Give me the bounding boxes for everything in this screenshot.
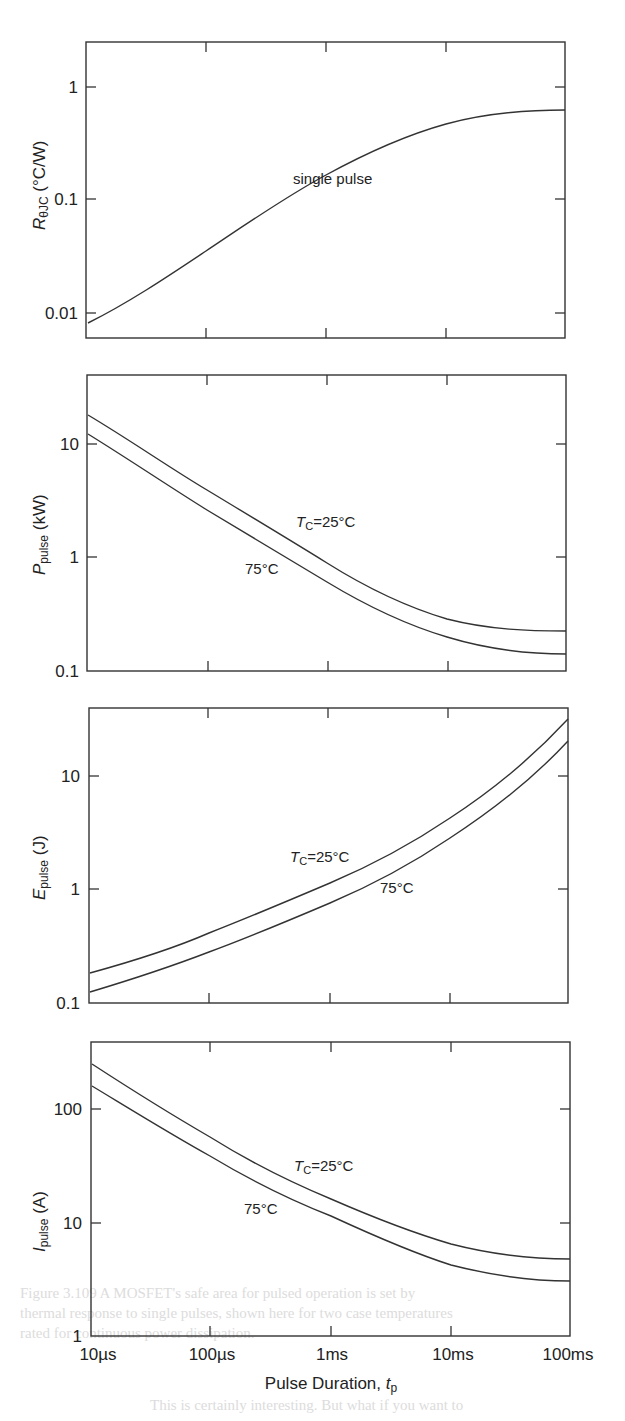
plot-frame	[86, 42, 565, 338]
series-single-pulse	[88, 110, 565, 323]
y-tick-label: 10	[63, 1214, 82, 1233]
x-tick-label: 10ms	[432, 1345, 474, 1364]
x-axis-label: Pulse Duration, tp	[265, 1374, 398, 1395]
y-tick-label: 10	[60, 435, 79, 454]
y-tick-label: 1	[73, 1327, 82, 1346]
x-tick-label: 1ms	[316, 1345, 348, 1364]
annotation-75c: 75°C	[380, 879, 414, 896]
bleed-caption-line-1: Figure 3.109 A MOSFET's safe area for pu…	[20, 1285, 416, 1301]
series-tc-25c	[90, 719, 568, 973]
y-tick-label: 0.1	[56, 994, 80, 1013]
y-tick-label: 0.1	[54, 190, 78, 209]
bleed-caption-line-2: thermal response to single pulses, shown…	[20, 1305, 453, 1321]
y-tick-label: 1	[69, 78, 78, 97]
series-75c	[88, 434, 566, 654]
y-axis-label: RθJC (°C/W)	[30, 140, 51, 230]
figure-canvas: Figure 3.109 A MOSFET's safe area for pu…	[0, 0, 625, 1421]
y-axis-label: Epulse (J)	[30, 835, 51, 900]
annotation-single-pulse: single pulse	[293, 170, 372, 187]
annotation-tc-25c: TC=25°C	[294, 1157, 354, 1176]
y-tick-label: 0.1	[55, 662, 79, 681]
bleed-caption-line-3: rated for continuous power dissipation.	[20, 1325, 255, 1341]
series-75c	[92, 1086, 570, 1281]
panel-pulse-current: 100 10 1 TC=25°C 75°C Ipulse (A) 10µs 10…	[30, 1042, 594, 1395]
x-tick-labels: 10µs 100µs 1ms 10ms 100ms	[79, 1345, 593, 1364]
y-tick-label: 1	[71, 880, 80, 899]
panel-pulse-power: 10 1 0.1 TC=25°C 75°C Ppulse (kW)	[30, 375, 566, 681]
x-tick-label: 100ms	[542, 1345, 593, 1364]
annotation-tc-25c: TC=25°C	[290, 848, 350, 867]
x-tick-label: 10µs	[79, 1345, 116, 1364]
y-axis-label: Ppulse (kW)	[30, 494, 51, 575]
y-tick-label: 10	[61, 767, 80, 786]
y-tick-label: 100	[54, 1100, 82, 1119]
y-ticks	[87, 444, 566, 557]
annotation-tc-25c: TC=25°C	[296, 513, 356, 532]
y-axis-label: Ipulse (A)	[30, 1191, 51, 1252]
panel-pulse-energy: 10 1 0.1 TC=25°C 75°C Epulse (J)	[30, 708, 568, 1013]
y-ticks	[89, 776, 568, 889]
annotation-75c: 75°C	[244, 1200, 278, 1217]
y-ticks	[86, 87, 565, 313]
series-75c	[90, 741, 568, 992]
y-tick-label: 1	[70, 548, 79, 567]
y-tick-label: 0.01	[45, 304, 78, 323]
x-tick-label: 100µs	[189, 1345, 236, 1364]
annotation-75c: 75°C	[245, 560, 279, 577]
bleed-body-line: This is certainly interesting. But what …	[150, 1397, 463, 1413]
x-ticks	[206, 42, 446, 338]
panel-thermal-resistance: 1 0.1 0.01 single pulse RθJC (°C/W)	[30, 42, 565, 338]
